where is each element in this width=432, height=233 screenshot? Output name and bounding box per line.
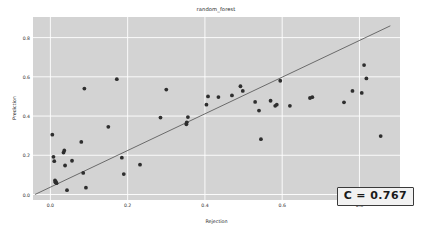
x-tick-label: 0.4 — [201, 203, 208, 208]
correlation-annotation: C = 0.767 — [337, 187, 414, 206]
y-axis-label: Prediction — [12, 96, 17, 120]
x-tick-label: 0.0 — [47, 203, 54, 208]
figure-canvas: random_forest 0.00.20.40.60.8 0.00.20.40… — [0, 0, 432, 233]
scatter-plot-svg — [33, 17, 400, 200]
x-tick-label: 0.2 — [124, 203, 131, 208]
y-tick-label: 0.4 — [20, 114, 30, 119]
x-axis-label: Rejection — [33, 219, 400, 224]
y-tick-label: 0.6 — [20, 74, 30, 79]
y-tick-label: 0.2 — [20, 153, 30, 158]
y-tick-label: 0.0 — [20, 192, 30, 197]
regression-line — [35, 26, 390, 195]
y-tick-label: 0.8 — [20, 35, 30, 40]
chart-title: random_forest — [0, 5, 432, 13]
plot-area[interactable] — [33, 17, 400, 200]
x-tick-label: 0.6 — [279, 203, 286, 208]
data-points — [50, 63, 382, 192]
